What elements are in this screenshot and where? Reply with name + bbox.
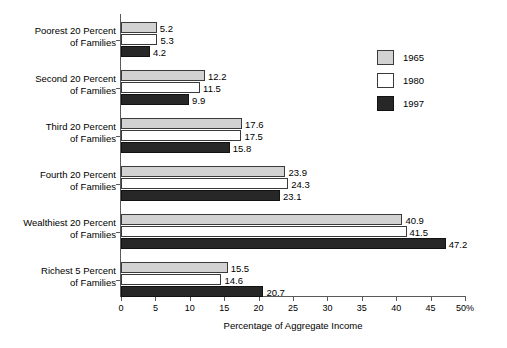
bar-value-1980-3: 24.3 (291, 179, 310, 190)
category-label-line: Third 20 Percent (0, 121, 116, 133)
category-label-5: Richest 5 Percentof Families (0, 265, 116, 288)
light-gray-swatch (377, 50, 394, 65)
category-label-line: of Families (0, 37, 116, 49)
category-tick-0 (116, 40, 120, 41)
category-label-line: Richest 5 Percent (0, 265, 116, 277)
bar-value-1997-3: 23.1 (283, 191, 302, 202)
category-label-0: Poorest 20 Percentof Families (0, 25, 116, 48)
category-tick-5 (116, 280, 120, 281)
bar-1965-0 (121, 22, 157, 33)
x-tick-35 (362, 296, 363, 301)
legend-label-1965: 1965 (403, 52, 424, 63)
bar-value-1965-5: 15.5 (231, 263, 250, 274)
x-tick-label-50: 50% (456, 303, 474, 313)
x-tick-25 (293, 296, 294, 301)
category-label-line: of Families (0, 85, 116, 97)
x-tick-label-10: 10 (185, 303, 195, 313)
bar-value-1965-1: 12.2 (208, 71, 227, 82)
x-tick-45 (431, 296, 432, 301)
x-tick-label-0: 0 (118, 303, 123, 313)
x-tick-40 (396, 296, 397, 301)
dark-swatch (377, 96, 394, 111)
bar-value-1980-0: 5.3 (160, 35, 173, 46)
bar-1980-5 (121, 274, 221, 285)
bar-1980-2 (121, 130, 241, 141)
bar-value-1980-1: 11.5 (203, 83, 221, 94)
x-tick-label-45: 45 (426, 303, 436, 313)
bar-1965-3 (121, 166, 285, 177)
bar-value-1980-5: 14.6 (224, 275, 243, 286)
category-label-line: Second 20 Percent (0, 73, 116, 85)
bar-value-1997-1: 9.9 (192, 95, 205, 106)
bar-value-1997-0: 4.2 (153, 47, 166, 58)
bar-value-1980-2: 17.5 (244, 131, 263, 142)
bar-value-1997-5: 20.7 (266, 287, 285, 298)
x-tick-label-35: 35 (357, 303, 367, 313)
category-label-line: Wealthiest 20 Percent (0, 217, 116, 229)
bar-value-1965-4: 40.9 (405, 215, 424, 226)
category-label-line: of Families (0, 133, 116, 145)
bar-value-1965-0: 5.2 (160, 23, 173, 34)
bar-1980-0 (121, 34, 157, 45)
category-label-1: Second 20 Percentof Families (0, 73, 116, 96)
category-label-line: of Families (0, 229, 116, 241)
bar-chart: 05101520253035404550% Percentage of Aggr… (0, 0, 507, 348)
legend-label-1980: 1980 (403, 75, 424, 86)
category-tick-2 (116, 136, 120, 137)
bar-value-1965-2: 17.6 (245, 119, 264, 130)
category-label-line: of Families (0, 277, 116, 289)
x-tick-50 (465, 296, 466, 301)
bar-1965-5 (121, 262, 228, 273)
x-tick-label-25: 25 (288, 303, 298, 313)
x-tick-label-5: 5 (153, 303, 158, 313)
category-tick-1 (116, 88, 120, 89)
bar-1980-1 (121, 82, 200, 93)
bar-1997-2 (121, 142, 230, 153)
bar-1965-1 (121, 70, 205, 81)
bar-1997-4 (121, 238, 446, 249)
category-label-line: of Families (0, 181, 116, 193)
bar-1997-3 (121, 190, 280, 201)
category-tick-4 (116, 232, 120, 233)
x-tick-label-15: 15 (219, 303, 229, 313)
bar-value-1997-4: 47.2 (449, 239, 468, 250)
bar-1980-4 (121, 226, 407, 237)
category-label-line: Poorest 20 Percent (0, 25, 116, 37)
category-label-3: Fourth 20 Percentof Families (0, 169, 116, 192)
bar-1965-4 (121, 214, 402, 225)
bar-value-1980-4: 41.5 (410, 227, 429, 238)
bar-1997-1 (121, 94, 189, 105)
x-tick-label-30: 30 (322, 303, 332, 313)
bar-1965-2 (121, 118, 242, 129)
x-tick-30 (327, 296, 328, 301)
bar-1980-3 (121, 178, 288, 189)
x-axis-title: Percentage of Aggregate Income (120, 320, 466, 331)
category-label-line: Fourth 20 Percent (0, 169, 116, 181)
bar-value-1965-3: 23.9 (288, 167, 307, 178)
white-swatch (377, 73, 394, 88)
x-tick-label-40: 40 (391, 303, 401, 313)
x-tick-label-20: 20 (254, 303, 264, 313)
category-label-4: Wealthiest 20 Percentof Families (0, 217, 116, 240)
category-tick-3 (116, 184, 120, 185)
bar-1997-0 (121, 46, 150, 57)
bar-value-1997-2: 15.8 (233, 143, 252, 154)
legend-label-1997: 1997 (403, 98, 424, 109)
bar-1997-5 (121, 286, 263, 297)
category-label-2: Third 20 Percentof Families (0, 121, 116, 144)
